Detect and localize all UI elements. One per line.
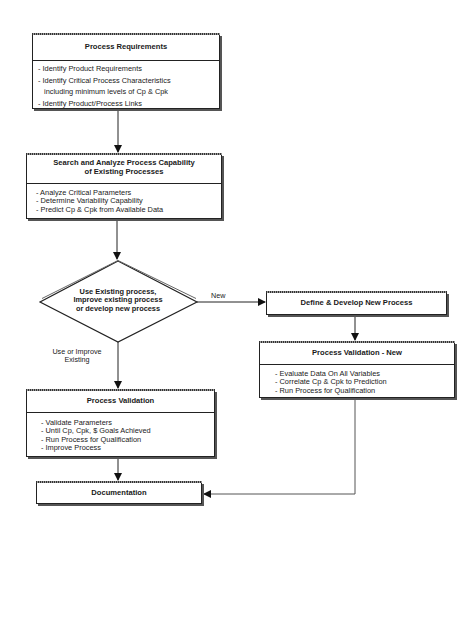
list-item: - Predict Cp & Cpk from Available Data (36, 206, 221, 214)
process-requirements-box: Process Requirements - Identify Product … (32, 34, 220, 109)
arrow-validation-new-to-documentation (204, 397, 355, 494)
search-analyze-box: Search and Analyze Process Capability of… (26, 154, 222, 219)
list-item: - Identify Critical Process Characterist… (38, 75, 219, 87)
list-item: - Identify Product Requirements (38, 63, 219, 75)
process-validation-title: Process Validation (27, 391, 214, 412)
decision-text: Use Existing process, Improve existing p… (58, 288, 178, 313)
process-validation-box: Process Validation - Validate Parameters… (26, 390, 215, 457)
list-item: - Run Process for Qualification (275, 387, 454, 395)
search-analyze-title: Search and Analyze Process Capability of… (27, 155, 221, 183)
define-new-process-title: Define & Develop New Process (267, 293, 446, 314)
documentation-title: Documentation (37, 483, 201, 503)
edge-label-new: New (211, 292, 225, 300)
define-new-process-box: Define & Develop New Process (266, 292, 447, 315)
process-validation-new-list: - Evaluate Data On All Variables - Corre… (260, 364, 454, 395)
process-validation-new-box: Process Validation - New - Evaluate Data… (259, 342, 455, 398)
edge-label-use-or-improve: Use or Improve Existing (43, 348, 111, 365)
list-item: including minimum levels of Cp & Cpk (38, 86, 219, 98)
process-validation-new-title: Process Validation - New (260, 343, 454, 364)
search-analyze-list: - Analyze Critical Parameters - Determin… (27, 183, 221, 214)
list-item: - Improve Process (41, 444, 214, 452)
documentation-box: Documentation (36, 482, 202, 504)
list-item: - Identify Product/Process Links (38, 98, 219, 110)
process-requirements-title: Process Requirements (33, 35, 219, 60)
process-requirements-list: - Identify Product Requirements - Identi… (33, 60, 219, 109)
process-validation-list: - Validate Parameters - Until Cp, Cpk, $… (27, 412, 214, 453)
